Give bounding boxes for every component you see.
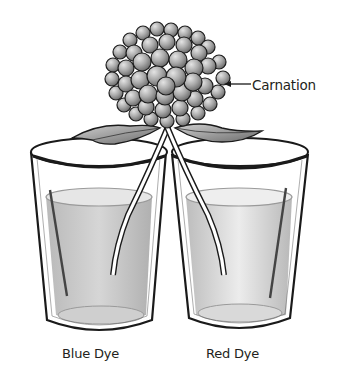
left-glass <box>31 138 167 330</box>
blue-dye-label: Blue Dye <box>62 346 119 361</box>
carnation-label: Carnation <box>252 77 316 93</box>
right-glass <box>172 138 308 328</box>
carnation-flower <box>105 22 230 128</box>
red-dye-label: Red Dye <box>206 346 259 361</box>
blue-dye-liquid <box>46 193 152 321</box>
diagram-illustration <box>0 0 340 388</box>
carnation-dye-diagram: Carnation Blue Dye Red Dye <box>0 0 340 388</box>
